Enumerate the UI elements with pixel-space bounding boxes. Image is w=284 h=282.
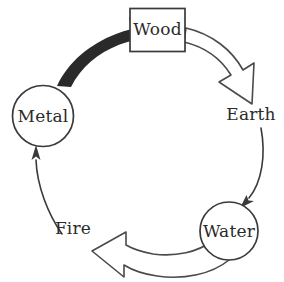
earth-label: Earth (226, 104, 275, 124)
wood-label: Wood (133, 19, 181, 39)
wood-to-earth-arrow (184, 28, 254, 104)
edge-wood-to-earth (184, 28, 254, 104)
water-label: Water (203, 221, 256, 241)
node-fire[interactable]: Fire (55, 218, 91, 238)
node-earth[interactable]: Earth (226, 104, 275, 124)
earth-to-water-line (249, 128, 263, 198)
node-water[interactable]: Water (200, 202, 258, 260)
edge-earth-to-water (240, 128, 263, 208)
five-elements-cycle-diagram: Metal Water Wood Earth Fire (0, 0, 284, 282)
fire-to-metal-arrowhead (32, 145, 41, 160)
node-metal[interactable]: Metal (13, 86, 74, 147)
node-wood[interactable]: Wood (130, 9, 185, 52)
fire-label: Fire (55, 218, 91, 238)
diagram-canvas: Metal Water Wood Earth Fire (0, 0, 284, 282)
metal-label: Metal (18, 106, 69, 126)
